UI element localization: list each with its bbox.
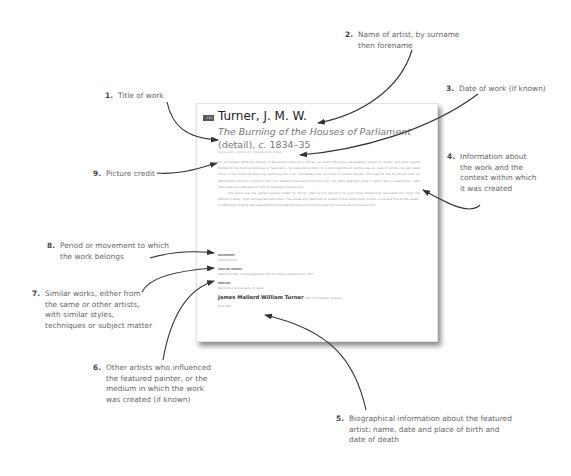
arrow-5 — [265, 315, 366, 410]
arrow-2 — [318, 50, 412, 123]
arrow-6 — [163, 281, 214, 360]
arrow-8 — [150, 252, 214, 258]
arrow-3 — [300, 94, 478, 155]
leader-arrows — [0, 0, 571, 476]
arrow-7 — [142, 268, 214, 292]
arrow-4 — [423, 190, 480, 209]
arrow-1 — [167, 102, 218, 140]
arrow-9 — [157, 163, 217, 173]
